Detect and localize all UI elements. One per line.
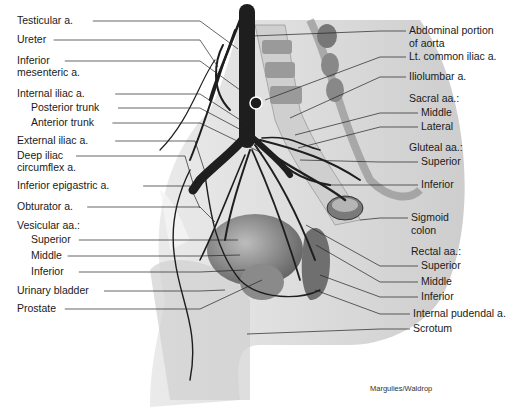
label-lt-common-iliac-a: Lt. common iliac a. (409, 50, 497, 62)
label-internal-iliac-a: Internal iliac a. (17, 87, 85, 99)
label-vesicular-aa: Vesicular aa.: (17, 219, 80, 231)
label-inferior-epigastric-a: Inferior epigastric a. (17, 179, 109, 191)
label-inferior: Inferior (17, 54, 50, 66)
label-middle: Middle (421, 275, 452, 287)
label-colon: colon (411, 224, 436, 236)
label-superior: Superior (421, 155, 461, 167)
label-mesenteric-a: mesenteric a. (17, 66, 80, 78)
label-testicular-a: Testicular a. (17, 14, 73, 26)
illustration-credit: Margulies/Waldrop (370, 384, 432, 393)
label-gluteal-aa: Gluteal aa.: (409, 141, 463, 153)
label-scrotum: Scrotum (413, 322, 452, 334)
leader-line (54, 40, 218, 67)
label-lateral: Lateral (421, 120, 453, 132)
label-urinary-bladder: Urinary bladder (17, 284, 89, 296)
label-abdominal-portion: Abdominal portion (409, 24, 494, 36)
label-inferior: Inferior (31, 265, 64, 277)
label-iliolumbar-a: Iliolumbar a. (409, 70, 466, 82)
label-middle: Middle (421, 106, 452, 118)
label-middle: Middle (31, 249, 62, 261)
label-ureter: Ureter (17, 33, 46, 45)
label-circumflex-a: circumflex a. (17, 161, 76, 173)
label-prostate: Prostate (17, 302, 56, 314)
label-internal-pudendal-a: Internal pudendal a. (413, 307, 506, 319)
label-posterior-trunk: Posterior trunk (31, 101, 99, 113)
leader-line (93, 21, 238, 49)
label-superior: Superior (31, 233, 71, 245)
label-external-iliac-a: External iliac a. (17, 134, 88, 146)
label-inferior: Inferior (421, 290, 454, 302)
label-obturator-a: Obturator a. (17, 200, 73, 212)
label-sacral-aa: Sacral aa.: (409, 92, 459, 104)
label-deep-iliac: Deep iliac (17, 149, 63, 161)
label-anterior-trunk: Anterior trunk (31, 116, 94, 128)
label-rectal-aa: Rectal aa.: (411, 245, 461, 257)
label-superior: Superior (421, 259, 461, 271)
label-sigmoid: Sigmoid (411, 211, 449, 223)
label-of-aorta: of aorta (409, 37, 445, 49)
label-inferior: Inferior (421, 178, 454, 190)
